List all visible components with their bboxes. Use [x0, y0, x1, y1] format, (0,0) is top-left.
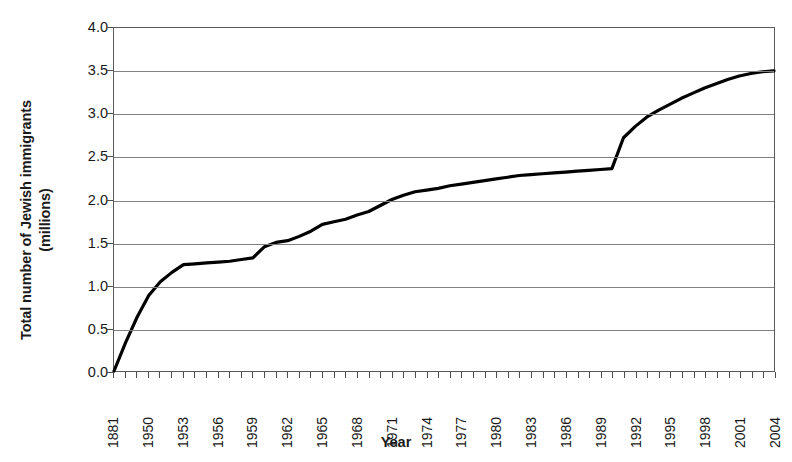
x-tick-label: 1959: [245, 363, 259, 409]
x-tick-mark: [276, 372, 277, 378]
gridline: [114, 287, 774, 288]
x-tick-mark: [264, 372, 265, 378]
y-tick-label: 3.0: [62, 106, 108, 120]
x-tick-label: 1986: [559, 363, 573, 409]
x-tick-mark: [369, 372, 370, 378]
x-tick-mark: [554, 372, 555, 378]
gridline: [114, 157, 774, 158]
x-tick-label: 1953: [176, 363, 190, 409]
x-tick-mark: [543, 372, 544, 378]
immigrants-line: [114, 71, 774, 371]
x-tick-mark: [659, 372, 660, 378]
x-tick-mark: [473, 372, 474, 378]
gridline: [114, 201, 774, 202]
x-tick-label: 1998: [698, 363, 712, 409]
x-tick-mark: [438, 372, 439, 378]
chart-figure: Total number of Jewish immigrants (milli…: [0, 0, 792, 462]
x-tick-mark: [194, 372, 195, 378]
x-tick-mark: [171, 372, 172, 378]
x-tick-mark: [206, 372, 207, 378]
x-tick-label: 2004: [768, 363, 782, 409]
x-tick-mark: [612, 372, 613, 378]
plot-area: [113, 27, 775, 372]
x-tick-mark: [508, 372, 509, 378]
x-tick-mark: [485, 372, 486, 378]
x-tick-label: 1881: [106, 363, 120, 409]
x-tick-mark: [299, 372, 300, 378]
x-tick-label: 2001: [733, 363, 747, 409]
gridline: [114, 330, 774, 331]
x-tick-label: 1983: [524, 363, 538, 409]
x-tick-label: 1971: [385, 363, 399, 409]
x-axis-title: Year: [0, 434, 792, 450]
y-tick-label: 0.0: [62, 365, 108, 379]
y-tick-label: 1.5: [62, 236, 108, 250]
x-tick-mark: [519, 372, 520, 378]
y-tick-label: 0.5: [62, 322, 108, 336]
x-tick-mark: [415, 372, 416, 378]
x-tick-label: 1977: [454, 363, 468, 409]
gridline: [114, 71, 774, 72]
x-tick-mark: [403, 372, 404, 378]
y-axis-title-line1: Total number of Jewish immigrants: [18, 100, 34, 340]
gridline: [114, 114, 774, 115]
x-tick-mark: [345, 372, 346, 378]
x-tick-mark: [729, 372, 730, 378]
x-tick-label: 1980: [489, 363, 503, 409]
x-tick-mark: [136, 372, 137, 378]
y-tick-label: 3.5: [62, 63, 108, 77]
x-tick-mark: [717, 372, 718, 378]
x-tick-mark: [589, 372, 590, 378]
x-tick-mark: [229, 372, 230, 378]
gridline: [114, 244, 774, 245]
y-tick-label: 2.5: [62, 149, 108, 163]
x-tick-mark: [450, 372, 451, 378]
x-axis-tick-labels: 1881195019531956195919621965196819711974…: [113, 379, 775, 429]
x-tick-label: 1974: [420, 363, 434, 409]
y-tick-label: 2.0: [62, 193, 108, 207]
x-tick-mark: [752, 372, 753, 378]
x-tick-mark: [624, 372, 625, 378]
x-tick-mark: [682, 372, 683, 378]
x-tick-mark: [380, 372, 381, 378]
x-tick-mark: [310, 372, 311, 378]
x-tick-mark: [334, 372, 335, 378]
x-tick-mark: [694, 372, 695, 378]
x-tick-label: 1965: [315, 363, 329, 409]
y-axis-tick-labels: 4.03.53.02.52.01.51.00.50.0: [56, 0, 108, 462]
x-tick-mark: [241, 372, 242, 378]
x-tick-label: 1995: [663, 363, 677, 409]
x-tick-label: 1956: [211, 363, 225, 409]
x-tick-label: 1989: [594, 363, 608, 409]
x-tick-label: 1950: [141, 363, 155, 409]
y-tick-label: 1.0: [62, 279, 108, 293]
y-axis-title-line2: (millions): [36, 30, 55, 410]
x-tick-label: 1968: [350, 363, 364, 409]
x-tick-mark: [159, 372, 160, 378]
x-tick-label: 1962: [280, 363, 294, 409]
x-tick-mark: [647, 372, 648, 378]
x-tick-mark: [125, 372, 126, 378]
x-tick-label: 1992: [629, 363, 643, 409]
x-tick-mark: [578, 372, 579, 378]
y-tick-label: 4.0: [62, 20, 108, 34]
data-line-series: [114, 28, 774, 371]
x-tick-mark: [763, 372, 764, 378]
